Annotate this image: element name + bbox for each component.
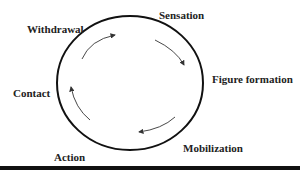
arrow-sensation-to-figure [155,40,184,65]
arrow-contact-to-withdrawal [71,87,90,120]
label-mobilization: Mobilization [183,143,243,154]
arrow-mobilization-to-action [139,117,175,132]
label-contact: Contact [13,88,50,99]
cycle-circle [57,16,203,150]
label-sensation: Sensation [159,10,204,21]
bottom-bar [0,166,300,170]
arrow-withdrawal-to-sensation [82,35,115,59]
label-figure-formation: Figure formation [212,74,293,85]
label-action: Action [54,152,85,163]
label-withdrawal: Withdrawal [27,24,84,35]
